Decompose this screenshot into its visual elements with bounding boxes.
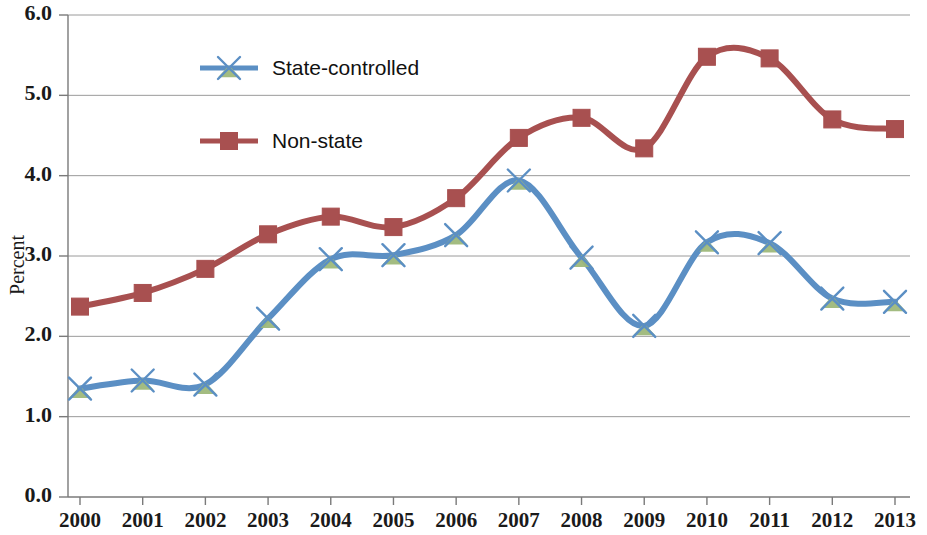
line-chart: 0.01.02.03.04.05.06.0 200020012002200320… (0, 0, 927, 535)
x-tick-label: 2007 (498, 508, 540, 532)
y-tick-label: 0.0 (25, 482, 53, 507)
x-tick-label: 2010 (686, 508, 728, 532)
legend-item-non-state[interactable]: Non-state (200, 129, 363, 152)
x-tick-label: 2013 (874, 508, 916, 532)
x-tick-label: 2008 (561, 508, 603, 532)
data-point-marker (573, 109, 590, 126)
data-point-marker (510, 129, 527, 146)
legend-item-state-controlled[interactable]: State-controlled (200, 56, 419, 79)
y-axis-title: Percent (6, 235, 28, 295)
x-tick-label: 2011 (749, 508, 790, 532)
data-point-marker (385, 219, 402, 236)
x-tick-label: 2004 (310, 508, 353, 532)
data-point-marker (260, 226, 277, 243)
data-point-marker (322, 208, 339, 225)
y-tick-label: 6.0 (25, 0, 53, 25)
y-tick-label: 3.0 (25, 241, 53, 266)
y-axis (59, 15, 68, 497)
data-point-marker (761, 50, 778, 67)
x-tick-label: 2000 (59, 508, 101, 532)
x-tick-label: 2009 (623, 508, 665, 532)
data-point-marker (72, 298, 89, 315)
data-point-marker (636, 140, 653, 157)
series-non-state (72, 48, 904, 315)
legend-label: Non-state (272, 129, 363, 152)
x-tick-label: 2005 (372, 508, 414, 532)
chart-canvas: 0.01.02.03.04.05.06.0 200020012002200320… (0, 0, 927, 535)
x-tick-label: 2012 (811, 508, 853, 532)
x-tick-labels: 2000200120022003200420052006200720082009… (59, 508, 916, 532)
y-tick-label: 1.0 (25, 402, 53, 427)
series-group (69, 48, 906, 400)
data-point-marker (824, 111, 841, 128)
data-point-marker (698, 48, 715, 65)
y-tick-label: 4.0 (25, 161, 53, 186)
x-tick-label: 2001 (122, 508, 164, 532)
x-tick-label: 2002 (184, 508, 226, 532)
y-tick-label: 2.0 (25, 321, 53, 346)
x-tick-label: 2003 (247, 508, 289, 532)
data-point-marker (887, 121, 904, 138)
x-tick-label: 2006 (435, 508, 477, 532)
x-axis (80, 497, 895, 505)
data-point-marker (134, 284, 151, 301)
series-state-controlled (69, 169, 906, 399)
legend-label: State-controlled (272, 56, 419, 79)
legend-swatch-marker (221, 133, 238, 150)
chart-legend: State-controlledNon-state (200, 56, 419, 152)
y-tick-labels: 0.01.02.03.04.05.06.0 (25, 0, 53, 507)
data-point-marker (448, 190, 465, 207)
data-point-marker (197, 260, 214, 277)
y-tick-label: 5.0 (25, 80, 53, 105)
series-line (80, 180, 895, 388)
